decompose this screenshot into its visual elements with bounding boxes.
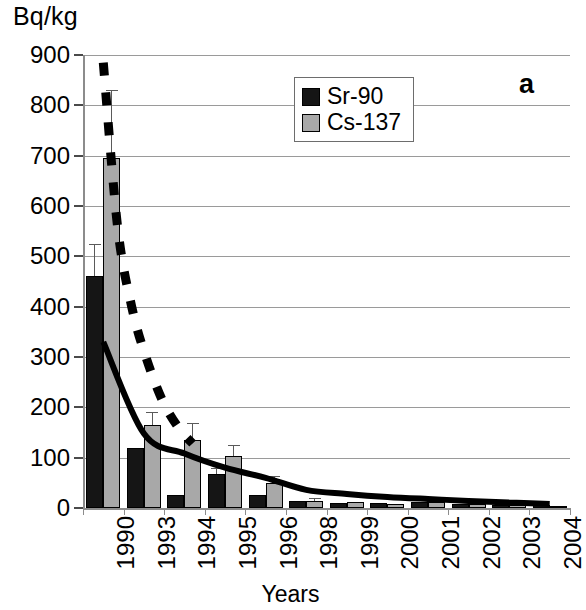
x-axis-tick [124, 508, 125, 515]
bar-cs-137 [103, 158, 120, 508]
bar-sr-90 [208, 474, 225, 508]
x-axis-tick [408, 508, 409, 515]
x-axis-tick [286, 508, 287, 515]
bar-cs-137 [387, 504, 404, 508]
error-bar [228, 445, 240, 456]
x-axis-tick [570, 508, 571, 515]
legend-entry-sr-90: Sr-90 [302, 85, 401, 108]
x-axis-tick-label: 1995 [236, 516, 260, 569]
bar-sr-90 [127, 448, 144, 508]
y-axis-tick-label: 600 [4, 194, 70, 218]
y-axis-tick-label: 800 [4, 93, 70, 117]
legend-entry-cs-137: Cs-137 [302, 111, 401, 134]
y-axis-tick [74, 306, 83, 308]
bar-sr-90 [452, 504, 469, 508]
error-bar-stem [152, 412, 153, 425]
legend-swatch-gray-square-icon [302, 114, 320, 132]
error-bar-cap [187, 423, 199, 424]
y-axis-tick-label: 100 [4, 446, 70, 470]
bar-sr-90 [533, 505, 550, 508]
gridline [83, 256, 570, 257]
y-axis-tick-label: 400 [4, 295, 70, 319]
error-bar [309, 498, 321, 501]
legend-label-cs-137: Cs-137 [327, 111, 401, 134]
gridline [83, 55, 570, 56]
error-bar [106, 90, 118, 158]
bar-cs-137 [550, 506, 567, 508]
bar-sr-90 [86, 276, 103, 508]
y-axis-tick [74, 155, 83, 157]
y-axis-tick-labels: 0100200300400500600700800900 [0, 0, 70, 610]
bar-sr-90 [492, 505, 509, 508]
x-axis-tick [489, 508, 490, 515]
error-bar-stem [233, 445, 234, 456]
x-axis-tick-label: 1999 [358, 516, 382, 569]
x-axis-tick [529, 508, 530, 515]
y-axis-tick-label: 700 [4, 144, 70, 168]
x-axis-tick-label: 1996 [277, 516, 301, 569]
error-bar-stem [192, 423, 193, 440]
x-axis-tick [327, 508, 328, 515]
x-axis-tick-label: 2003 [520, 516, 544, 569]
error-bar-cap [146, 412, 158, 413]
x-axis-tick-label: 2002 [480, 516, 504, 569]
error-bar [268, 476, 280, 483]
y-axis-tick-label: 300 [4, 345, 70, 369]
x-axis-tick [83, 508, 84, 515]
gridline [83, 407, 570, 408]
error-bar [146, 412, 158, 425]
y-axis-tick [74, 205, 83, 207]
bar-sr-90 [330, 503, 347, 508]
bar-cs-137 [225, 456, 242, 508]
error-bar-cap [309, 498, 321, 499]
gridline [83, 206, 570, 207]
x-axis-tick [367, 508, 368, 515]
x-axis-tick-label: 2004 [561, 516, 585, 569]
error-bar-stem [111, 90, 112, 158]
y-axis-tick-label: 200 [4, 395, 70, 419]
y-axis-tick-label: 500 [4, 244, 70, 268]
gridline [83, 156, 570, 157]
x-axis-tick-label: 2000 [398, 516, 422, 569]
error-bar [89, 244, 101, 277]
error-bar-stem [94, 244, 95, 277]
x-axis-title: Years [0, 583, 581, 606]
x-axis-tick-label: 1993 [155, 516, 179, 569]
gridline [83, 307, 570, 308]
y-axis-tick [74, 255, 83, 257]
gridline [83, 357, 570, 358]
bar-cs-137 [144, 425, 161, 508]
error-bar-cap [228, 445, 240, 446]
bar-cs-137 [306, 501, 323, 508]
x-axis-tick [448, 508, 449, 515]
error-bar-cap [106, 90, 118, 91]
x-axis-tick-label: 2001 [439, 516, 463, 569]
x-axis-tick [164, 508, 165, 515]
y-axis-line [83, 55, 85, 509]
chart-legend: Sr-90 Cs-137 [294, 77, 414, 142]
bar-sr-90 [411, 502, 428, 508]
x-axis-tick-label: 1990 [114, 516, 138, 569]
bar-sr-90 [249, 495, 266, 508]
y-axis-tick-label: 0 [4, 496, 70, 520]
x-axis-tick-label: 1994 [195, 516, 219, 569]
x-axis-tick [205, 508, 206, 515]
y-axis-tick [74, 54, 83, 56]
y-axis-tick-label: 900 [4, 43, 70, 67]
legend-label-sr-90: Sr-90 [327, 85, 383, 108]
bar-cs-137 [347, 502, 364, 508]
bar-cs-137 [266, 483, 283, 508]
error-bar-cap [268, 476, 280, 477]
bar-sr-90 [370, 503, 387, 508]
y-axis-tick [74, 507, 83, 509]
y-axis-tick [74, 406, 83, 408]
bar-sr-90 [167, 495, 184, 508]
error-bar-cap [89, 244, 101, 245]
bar-sr-90 [289, 501, 306, 508]
x-axis-tick [245, 508, 246, 515]
error-bar [187, 423, 199, 440]
x-axis-tick-label: 1998 [317, 516, 341, 569]
bar-cs-137 [428, 502, 445, 508]
bar-cs-137 [469, 504, 486, 508]
